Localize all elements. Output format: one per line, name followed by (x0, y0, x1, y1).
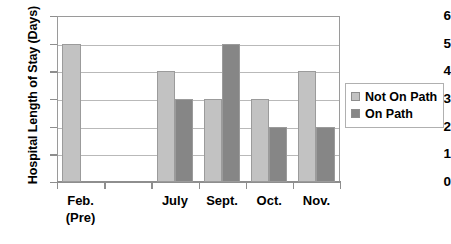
x-axis-label-line1: Oct. (246, 192, 293, 209)
y-tick-label-6: 6 (429, 9, 451, 23)
chart-legend: Not On Path On Path (345, 83, 444, 128)
x-axis-label-line2: (Pre) (57, 209, 104, 226)
bar-not-on-path-0 (62, 44, 80, 182)
y-tick-mark-5 (50, 44, 57, 45)
x-tick-mark-5 (293, 182, 294, 189)
y-tick-mark-3 (50, 99, 57, 100)
y-tick-mark-2 (50, 127, 57, 128)
y-tick-mark-0 (50, 182, 57, 183)
y-tick-mark-4 (50, 71, 57, 72)
bar-not-on-path-4 (251, 99, 269, 182)
x-axis-label-line1: July (151, 192, 198, 209)
x-tick-mark-2 (151, 182, 152, 189)
bar-on-path-3 (222, 44, 240, 182)
y-tick-mark-6 (50, 16, 57, 17)
bar-on-path-4 (269, 127, 287, 182)
x-tick-mark-6 (340, 182, 341, 189)
x-axis-label-3: Sept. (199, 192, 246, 209)
y-tick-mark-1 (50, 154, 57, 155)
x-tick-mark-3 (199, 182, 200, 189)
x-axis-label-5: Nov. (293, 192, 340, 209)
bar-not-on-path-3 (204, 99, 222, 182)
legend-swatch-not-on-path (351, 92, 360, 101)
x-axis-label-4: Oct. (246, 192, 293, 209)
y-tick-label-1: 1 (429, 147, 451, 161)
bars-layer (57, 16, 340, 182)
legend-swatch-on-path (351, 109, 360, 118)
bar-on-path-2 (175, 99, 193, 182)
x-axis-label-line1: Sept. (199, 192, 246, 209)
x-axis-label-2: July (151, 192, 198, 209)
y-tick-label-5: 5 (429, 37, 451, 51)
y-tick-label-0: 0 (429, 175, 451, 189)
x-tick-mark-4 (246, 182, 247, 189)
x-axis-label-line1: Feb. (57, 192, 104, 209)
x-axis-label-0: Feb.(Pre) (57, 192, 104, 226)
bar-not-on-path-5 (298, 71, 316, 182)
bar-on-path-5 (316, 127, 334, 182)
x-tick-mark-0 (57, 182, 58, 189)
bar-not-on-path-2 (157, 71, 175, 182)
x-axis-label-line1: Nov. (293, 192, 340, 209)
y-tick-label-4: 4 (429, 64, 451, 78)
legend-label-on-path: On Path (365, 107, 413, 121)
x-tick-mark-1 (104, 182, 105, 189)
legend-item-on-path: On Path (351, 105, 438, 122)
legend-item-not-on-path: Not On Path (351, 88, 438, 105)
y-axis-title: Hospital Length of Stay (Days) (26, 0, 40, 190)
bar-chart: Hospital Length of Stay (Days) 0123456 F… (0, 0, 451, 244)
legend-label-not-on-path: Not On Path (365, 90, 437, 104)
